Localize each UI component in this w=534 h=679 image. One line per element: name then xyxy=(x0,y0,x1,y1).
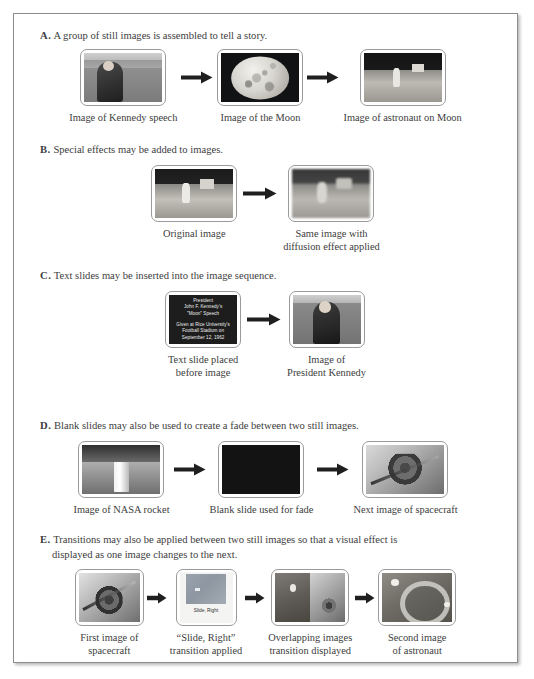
caption-line: Image of Kennedy speech xyxy=(69,111,177,124)
section-c: C. Text slides may be inserted into the … xyxy=(14,268,517,379)
thumbnail-text-slide: President John F. Kennedy's "Moon" Speec… xyxy=(165,291,241,348)
thumbnail-astronaut-moon xyxy=(360,49,446,106)
image-slide-right-transition: Slide, Right xyxy=(180,572,233,623)
figure-item-first-spacecraft: First image of spacecraft xyxy=(75,569,144,657)
thumbnail-transition-chip: Slide, Right xyxy=(176,569,237,626)
thumbnail-overlapping-images xyxy=(271,569,349,626)
section-b-heading-text: Special effects may be added to images. xyxy=(53,144,223,155)
arrow-b-1 xyxy=(237,165,283,222)
arrow-d-2 xyxy=(313,441,353,498)
figure-item-astronaut-moon: Image of astronaut on Moon xyxy=(343,49,461,124)
thumbnail-next-spacecraft xyxy=(362,441,448,498)
caption-line: Blank slide used for fade xyxy=(210,503,314,516)
thumbnail-second-astronaut xyxy=(378,569,456,626)
caption-diffusion-image: Same image with diffusion effect applied xyxy=(283,227,380,253)
caption-text-slide: Text slide placed before image xyxy=(168,353,238,379)
image-spacecraft xyxy=(366,445,444,494)
text-slide-line: "Moon" Speech xyxy=(169,311,237,317)
section-e-row: First image of spacecraft Slide, Right xyxy=(14,569,517,657)
section-c-letter: C. xyxy=(40,270,51,281)
caption-line: “Slide, Right” xyxy=(170,631,242,644)
arrow-a-1 xyxy=(177,49,217,106)
section-c-heading: C. Text slides may be inserted into the … xyxy=(26,268,517,283)
arrow-e-3 xyxy=(352,569,378,626)
section-d-letter: D. xyxy=(40,420,51,431)
figure-item-second-astronaut: Second image of astronaut xyxy=(378,569,456,657)
section-d-heading-text: Blank slides may also be used to create … xyxy=(54,420,359,431)
image-kennedy-speech xyxy=(84,53,162,102)
section-b-letter: B. xyxy=(40,144,51,155)
image-original-astronaut xyxy=(155,169,233,218)
overlap-left-half xyxy=(275,573,310,622)
caption-first-spacecraft: First image of spacecraft xyxy=(80,631,138,657)
caption-line: Original image xyxy=(163,227,226,240)
section-c-heading-text: Text slides may be inserted into the ima… xyxy=(54,270,277,281)
section-e-heading-text: Transitions may also be applied between … xyxy=(53,534,397,545)
caption-line: transition applied xyxy=(170,644,242,657)
section-a-heading: A. A group of still images is assembled … xyxy=(26,28,517,43)
image-text-slide: President John F. Kennedy's "Moon" Speec… xyxy=(169,295,237,344)
section-a-heading-text: A group of still images is assembled to … xyxy=(53,30,267,41)
image-nasa-rocket xyxy=(82,445,160,494)
section-b-heading: B. Special effects may be added to image… xyxy=(26,142,517,157)
caption-line: Image of NASA rocket xyxy=(73,503,169,516)
caption-overlapping-images: Overlapping images transition displayed xyxy=(268,631,352,657)
arrow-a-2 xyxy=(303,49,343,106)
caption-line: President Kennedy xyxy=(287,366,366,379)
caption-line: Text slide placed xyxy=(168,353,238,366)
thumbnail-first-spacecraft xyxy=(75,569,144,626)
section-e-letter: E. xyxy=(40,534,51,545)
figure-page: A. A group of still images is assembled … xyxy=(13,13,518,663)
caption-line: First image of xyxy=(80,631,138,644)
transition-chip-label: Slide, Right xyxy=(194,608,219,613)
arrow-e-1 xyxy=(144,569,170,626)
image-astronaut-suit xyxy=(382,573,452,622)
caption-line: Overlapping images xyxy=(268,631,352,644)
section-b-row: Original image Same image with diffusion… xyxy=(14,165,517,253)
image-diffusion-astronaut xyxy=(292,169,370,218)
arrow-e-2 xyxy=(242,569,268,626)
image-first-spacecraft xyxy=(79,573,140,622)
text-slide-line: September 12, 1962 xyxy=(169,335,237,341)
caption-line: before image xyxy=(168,366,238,379)
caption-line: spacecraft xyxy=(80,644,138,657)
figure-item-kennedy-speech: Image of Kennedy speech xyxy=(69,49,177,124)
caption-blank-slide: Blank slide used for fade xyxy=(210,503,314,516)
figure-item-next-spacecraft: Next image of spacecraft xyxy=(353,441,457,516)
overlap-right-half xyxy=(310,573,345,622)
section-e-heading: E. Transitions may also be applied betwe… xyxy=(26,532,517,547)
section-d-row: Image of NASA rocket Blank slide used fo… xyxy=(14,441,517,516)
caption-line: Image of astronaut on Moon xyxy=(343,111,461,124)
caption-line: transition displayed xyxy=(268,644,352,657)
section-a-letter: A. xyxy=(40,30,51,41)
caption-next-spacecraft: Next image of spacecraft xyxy=(353,503,457,516)
caption-astronaut-moon: Image of astronaut on Moon xyxy=(343,111,461,124)
caption-line: of astronaut xyxy=(388,644,447,657)
image-moon xyxy=(221,53,299,102)
thumbnail-moon xyxy=(217,49,303,106)
text-slide-title-block: President John F. Kennedy's "Moon" Speec… xyxy=(169,298,237,317)
caption-line: Same image with xyxy=(283,227,380,240)
image-astronaut-moon xyxy=(364,53,442,102)
section-a: A. A group of still images is assembled … xyxy=(14,28,517,124)
section-e: E. Transitions may also be applied betwe… xyxy=(14,532,517,657)
caption-kennedy-portrait: Image of President Kennedy xyxy=(287,353,366,379)
arrow-d-1 xyxy=(170,441,210,498)
thumbnail-blank-slide xyxy=(218,441,304,498)
figure-item-overlapping-images: Overlapping images transition displayed xyxy=(268,569,352,657)
section-c-row: President John F. Kennedy's "Moon" Speec… xyxy=(14,291,517,379)
figure-item-nasa-rocket: Image of NASA rocket xyxy=(73,441,169,516)
caption-original-image: Original image xyxy=(163,227,226,240)
caption-moon: Image of the Moon xyxy=(220,111,300,124)
caption-transition-chip: “Slide, Right” transition applied xyxy=(170,631,242,657)
section-a-row: Image of Kennedy speech Image of the Moo… xyxy=(14,49,517,124)
figure-item-moon: Image of the Moon xyxy=(217,49,303,124)
caption-second-astronaut: Second image of astronaut xyxy=(388,631,447,657)
image-overlapping-transition xyxy=(275,573,345,622)
figure-item-diffusion-image: Same image with diffusion effect applied xyxy=(283,165,380,253)
thumbnail-diffusion-image xyxy=(288,165,374,222)
figure-item-text-slide: President John F. Kennedy's "Moon" Speec… xyxy=(165,291,241,379)
section-b: B. Special effects may be added to image… xyxy=(14,142,517,253)
caption-line: Image of xyxy=(287,353,366,366)
transition-preview-square xyxy=(186,574,225,604)
